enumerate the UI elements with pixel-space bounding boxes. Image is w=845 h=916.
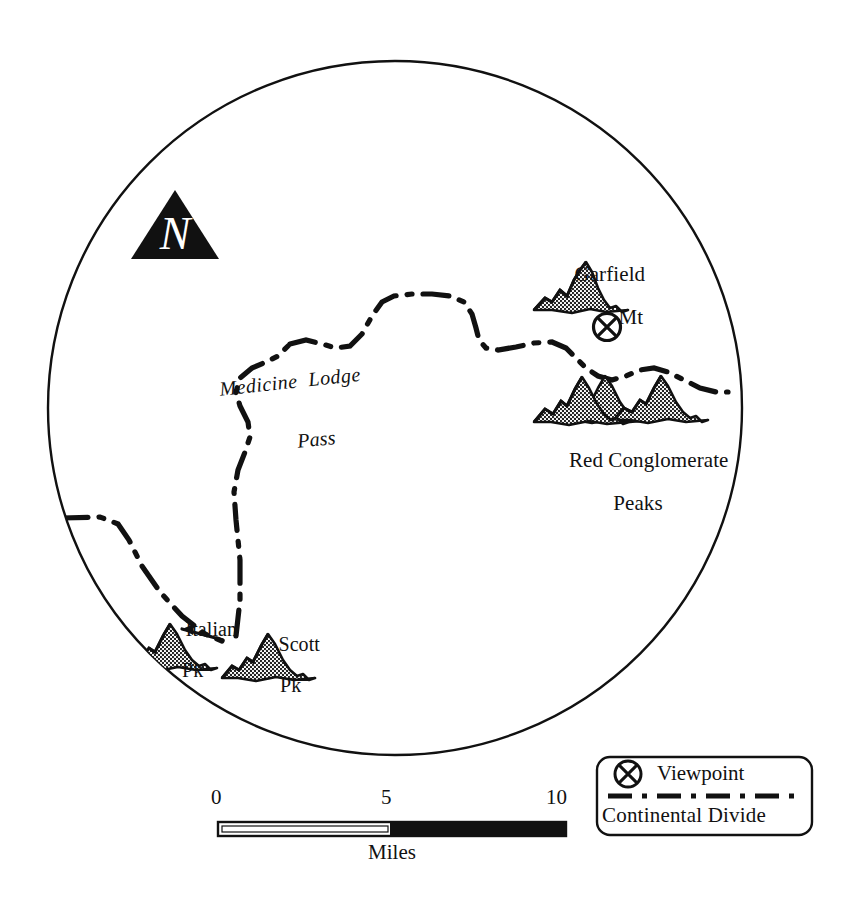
label-scott-pk: Scott Pk — [258, 613, 320, 738]
scale-tick-5: 5 — [381, 785, 392, 810]
north-arrow-icon: N — [131, 190, 219, 259]
label-italian-pk-line1: Italian — [185, 618, 237, 640]
label-red-conglomerate-peaks-line2: Peaks — [540, 493, 736, 515]
legend-circled-x-icon — [615, 761, 641, 787]
label-garfield-mt-line2: Mt — [553, 307, 645, 329]
label-italian-pk: Italian Pk — [165, 598, 237, 723]
red-conglomerate-peaks-symbol — [534, 376, 708, 425]
north-arrow-letter: N — [159, 208, 193, 259]
scale-tick-0: 0 — [211, 785, 222, 810]
label-red-conglomerate-peaks: Red Conglomerate Peaks — [540, 428, 736, 559]
label-scott-pk-line1: Scott — [278, 633, 320, 655]
map-figure: N Garfield Mt Re — [0, 0, 845, 916]
label-red-conglomerate-peaks-line1: Red Conglomerate — [569, 448, 729, 472]
label-medicine-lodge-pass: Medicine Lodge Pass — [214, 322, 372, 500]
legend-item-continental-divide-label: Continental Divide — [602, 803, 766, 828]
label-medicine-lodge-pass-line2: Pass — [225, 424, 368, 460]
scale-unit-label: Miles — [218, 840, 566, 865]
legend-item-viewpoint-label: Viewpoint — [657, 761, 744, 786]
label-italian-pk-line2: Pk — [165, 660, 237, 681]
label-garfield-mt-line1: Garfield — [574, 262, 645, 286]
label-medicine-lodge-pass-line1: Medicine Lodge — [218, 364, 361, 400]
scale-tick-10: 10 — [546, 785, 567, 810]
label-scott-pk-line2: Pk — [258, 675, 320, 696]
label-garfield-mt: Garfield Mt — [553, 242, 645, 373]
scale-bar-graphic — [218, 822, 566, 836]
